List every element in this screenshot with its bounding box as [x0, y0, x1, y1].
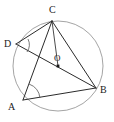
vertex-label-a: A [8, 101, 16, 112]
center-point-dot [57, 65, 60, 68]
geometry-figure: C D A B O [0, 0, 114, 122]
vertex-label-c: C [49, 4, 56, 15]
vertex-label-b: B [100, 84, 107, 95]
circle-geometry-diagram: C D A B O [0, 0, 114, 122]
center-label-o: O [54, 53, 61, 63]
segment-ab [23, 88, 96, 100]
angle-arc-a [29, 84, 40, 98]
segment-dc [16, 21, 52, 44]
vertex-label-d: D [4, 38, 11, 49]
